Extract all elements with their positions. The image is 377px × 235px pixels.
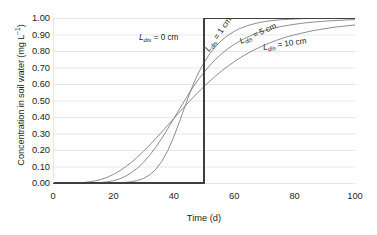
annotation-subscript: dis	[144, 36, 152, 43]
x-axis-label: Time (d)	[53, 213, 355, 223]
y-tick-label: 1.00	[14, 13, 50, 23]
annotation-ldis-0: Ldis = 0 cm	[139, 33, 178, 42]
x-tick-label: 40	[154, 191, 194, 201]
x-tick-label: 80	[275, 191, 315, 201]
y-tick-label: 0.40	[14, 112, 50, 122]
chart-figure: Concentration in soil water (mg L−1) 0.0…	[0, 0, 377, 235]
y-tick-label: 0.90	[14, 30, 50, 40]
y-tick-label: 0.00	[14, 178, 50, 188]
annotation-value: = 0 cm	[151, 33, 178, 42]
x-tick-label: 100	[335, 191, 375, 201]
y-tick-label: 0.20	[14, 145, 50, 155]
x-tick-label: 60	[214, 191, 254, 201]
annotation-symbol: Ldis	[139, 33, 151, 42]
x-tick-label: 0	[33, 191, 73, 201]
y-tick-label: 0.60	[14, 79, 50, 89]
y-tick-label: 0.80	[14, 46, 50, 56]
chart-canvas	[53, 18, 355, 184]
y-tick-label: 0.10	[14, 162, 50, 172]
plot-area	[53, 18, 355, 183]
annotation-subscript: dis	[267, 44, 276, 52]
y-tick-label: 0.50	[14, 96, 50, 106]
y-tick-label: 0.70	[14, 63, 50, 73]
x-tick-label: 20	[93, 191, 133, 201]
y-tick-label: 0.30	[14, 129, 50, 139]
x-axis-ticks: 020406080100	[0, 191, 377, 205]
